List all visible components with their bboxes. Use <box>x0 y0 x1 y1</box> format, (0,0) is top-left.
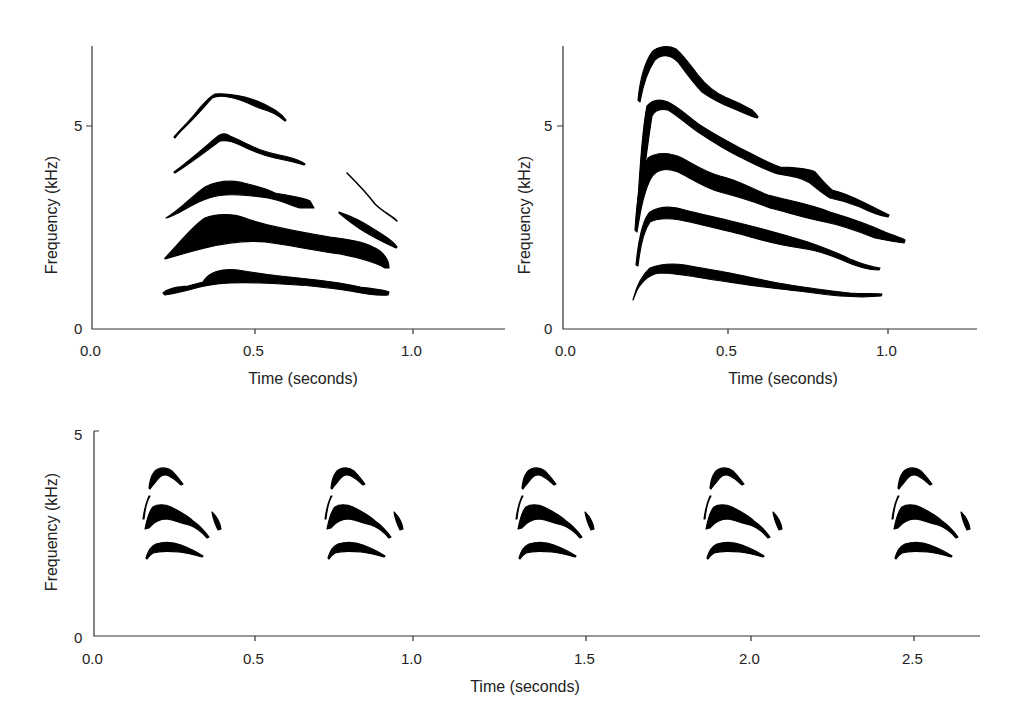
spectrogram-traces <box>163 94 397 296</box>
xtick-1.0: 1.0 <box>401 650 422 667</box>
xtick-1.5: 1.5 <box>574 650 595 667</box>
xtick-0.5: 0.5 <box>716 342 737 359</box>
ytick-5: 5 <box>74 426 82 443</box>
spectrogram-traces <box>143 468 970 559</box>
xtick-0.0: 0.0 <box>80 342 101 359</box>
note-5 <box>892 468 970 559</box>
panel-top-left: 5 0 0.0 0.5 1.0 Time (seconds) Frequency… <box>43 46 505 387</box>
tick-marks <box>94 431 914 641</box>
y-axis-label: Frequency (kHz) <box>43 156 60 274</box>
xtick-0.0: 0.0 <box>82 650 103 667</box>
ytick-0: 0 <box>544 320 552 337</box>
xtick-1.0: 1.0 <box>876 342 897 359</box>
ytick-0: 0 <box>74 629 82 646</box>
spectrogram-traces <box>633 47 905 300</box>
harmonic-4 <box>174 134 305 173</box>
note-1 <box>143 468 221 559</box>
x-axis-label: Time (seconds) <box>728 370 838 387</box>
axes-frame <box>94 431 980 636</box>
note-3 <box>516 468 594 559</box>
y-axis-label: Frequency (kHz) <box>43 473 60 591</box>
xtick-2.0: 2.0 <box>739 650 760 667</box>
axes-frame <box>92 46 505 329</box>
xtick-2.5: 2.5 <box>902 650 923 667</box>
harmonic-late-b <box>347 173 397 221</box>
y-axis-label: Frequency (kHz) <box>516 156 533 274</box>
panel-top-right: 5 0 0.0 0.5 1.0 Time (seconds) Frequency… <box>516 46 977 387</box>
spectrogram-figure: 5 0 0.0 0.5 1.0 Time (seconds) Frequency… <box>0 0 1029 721</box>
x-axis-label: Time (seconds) <box>248 370 358 387</box>
x-axis-label: Time (seconds) <box>470 678 580 695</box>
ytick-5: 5 <box>74 117 82 134</box>
xtick-1.0: 1.0 <box>401 342 422 359</box>
ytick-0: 0 <box>74 320 82 337</box>
ytick-5: 5 <box>544 117 552 134</box>
xtick-0.0: 0.0 <box>555 342 576 359</box>
harmonic-1 <box>163 270 389 296</box>
xtick-0.5: 0.5 <box>243 650 264 667</box>
note-2 <box>325 468 403 559</box>
note-4 <box>704 468 782 559</box>
harmonic-1 <box>633 264 882 300</box>
xtick-0.5: 0.5 <box>243 342 264 359</box>
panel-bottom: 5 0 0.0 0.5 1.0 1.5 2.0 2.5 Time (second… <box>43 426 980 695</box>
harmonic-3 <box>166 181 314 218</box>
harmonic-5 <box>174 94 286 138</box>
